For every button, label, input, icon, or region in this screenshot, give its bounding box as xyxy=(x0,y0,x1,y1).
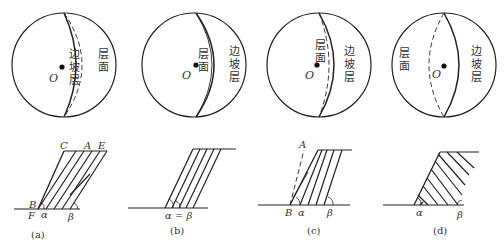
bedding-label-1: 层 xyxy=(98,48,109,61)
slope-layer-label-1: 边 xyxy=(471,45,482,58)
beta-label: β xyxy=(456,209,463,220)
bedding-line-partial xyxy=(70,174,90,195)
bedding-label-2: 面 xyxy=(98,61,109,74)
bedding-line xyxy=(324,150,342,205)
slope-layer-label-3: 层 xyxy=(471,71,482,84)
beta-label: β xyxy=(326,207,333,218)
bedding-label-2: 面 xyxy=(399,60,410,73)
point-F-label: F xyxy=(27,210,36,221)
center-label: O xyxy=(182,69,191,82)
center-label: O xyxy=(305,69,314,82)
point-C-label: C xyxy=(60,140,68,151)
center-point xyxy=(441,63,446,68)
slope-layer-label-3: 层 xyxy=(344,71,355,84)
bedding-line xyxy=(447,152,469,175)
bedding-line xyxy=(70,151,107,209)
panel-d-section xyxy=(383,152,479,205)
center-point xyxy=(59,64,64,69)
bedding-line xyxy=(172,149,200,208)
alpha-label: α xyxy=(416,207,423,218)
bedding-label-2: 面 xyxy=(198,61,209,74)
caption-c: (c) xyxy=(307,225,321,236)
alpha-arc xyxy=(296,197,300,205)
alpha-label: α xyxy=(298,207,305,218)
center-label: O xyxy=(49,72,58,85)
slope-layer-label-2: 坡 xyxy=(229,58,240,71)
figure-canvas: O 边 坡 层 层 面 O 层 面 边 坡 层 O 层 面 边 坡 层 O 层 … xyxy=(0,0,504,250)
bedding-label-1: 层 xyxy=(399,47,410,60)
slope-layer-label-2: 坡 xyxy=(344,58,355,71)
point-B-label: B xyxy=(28,199,36,210)
bedding-line xyxy=(186,149,214,208)
slope-layer-label-2: 坡 xyxy=(69,61,80,74)
beta-arc xyxy=(328,197,333,205)
alpha-beta-label: α = β xyxy=(165,210,192,221)
panel-b-section xyxy=(128,149,236,208)
caption-b: (b) xyxy=(170,225,184,236)
panel-a-section xyxy=(14,151,107,209)
caption-d: (d) xyxy=(433,225,447,236)
point-A-label: A xyxy=(83,140,91,151)
slope-great-circle xyxy=(319,13,334,117)
bedding-label-2: 面 xyxy=(315,52,326,65)
slope-layer-label-1: 边 xyxy=(344,45,355,58)
slope-layer-label-1: 边 xyxy=(229,45,240,58)
bedding-line xyxy=(193,149,221,208)
slope-layer-label-1: 边 xyxy=(69,48,80,61)
beta-label: β xyxy=(67,211,74,222)
bedding-label-1: 层 xyxy=(198,48,209,61)
bedding-great-circle xyxy=(319,13,329,117)
point-B-label: B xyxy=(284,207,292,218)
beta-arc xyxy=(74,203,78,209)
panel-c-stereonet xyxy=(267,13,371,117)
alpha-label: α xyxy=(41,209,48,220)
caption-a: (a) xyxy=(31,229,45,240)
bedding-line xyxy=(179,149,207,208)
panel-c-section xyxy=(258,150,352,205)
slope-layer-label-3: 层 xyxy=(229,71,240,84)
bedding-line xyxy=(418,195,428,205)
bedding-line xyxy=(427,178,448,205)
point-A-label: A xyxy=(298,139,306,150)
bedding-label-1: 层 xyxy=(315,39,326,52)
slope-face-dashed xyxy=(290,150,304,205)
bedding-line xyxy=(62,151,100,209)
slope-layer-label-2: 坡 xyxy=(471,58,482,71)
center-label: O xyxy=(432,68,441,81)
point-E-label: E xyxy=(97,140,106,151)
bedding-line xyxy=(38,151,76,209)
slope-layer-label-3: 层 xyxy=(69,74,80,87)
